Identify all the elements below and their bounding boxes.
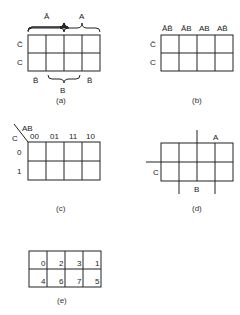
kmap-a-bottom-label-b-bar-right: B̄	[87, 76, 92, 85]
kmap-e-cell-2: 2	[59, 259, 64, 268]
kmap-c-col-header-01: 01	[50, 132, 59, 141]
kmap-d-label-c: C	[153, 168, 159, 177]
kmap-a-brace-right	[64, 23, 100, 32]
kmap-e-cell-3: 3	[77, 259, 82, 268]
karnaugh-map-figure: Ā A C̄ C B̄ B B̄ (a) ĀB̄ ĀB AB AB̄ C̄ C	[0, 0, 240, 315]
kmap-a-brace-left	[28, 23, 69, 32]
kmap-c-corner-c: C	[12, 134, 18, 143]
kmap-b-col-header-4: AB̄	[217, 24, 228, 33]
kmap-d-grid	[146, 130, 233, 194]
kmap-c-row-label-0: 0	[17, 148, 22, 157]
kmap-a-grid	[28, 35, 100, 71]
kmap-b-grid	[161, 35, 233, 71]
kmap-a-row-label-c-bar: C̄	[17, 40, 23, 49]
kmap-e-cell-6: 6	[59, 277, 64, 286]
kmap-d-label-b: B	[194, 185, 199, 194]
kmap-c-col-header-11: 11	[69, 132, 78, 141]
kmap-c-row-label-1: 1	[17, 167, 22, 176]
kmap-d: A C B (d)	[146, 130, 233, 213]
kmap-b-col-header-2: ĀB	[181, 24, 192, 33]
kmap-a-row-label-c: C	[17, 58, 23, 67]
kmap-b-caption: (b)	[192, 96, 202, 105]
kmap-c-caption: (c)	[56, 204, 66, 213]
kmap-b-row-label-c: C	[150, 58, 156, 67]
kmap-e: 0 2 3 1 4 6 7 5 (e)	[29, 251, 101, 305]
kmap-c: AB C 00 01 11 10 0 1 (c)	[12, 124, 100, 213]
kmap-c-grid	[28, 142, 100, 180]
kmap-e-cell-0: 0	[41, 259, 46, 268]
kmap-b-row-label-c-bar: C̄	[150, 40, 156, 49]
kmap-e-grid	[29, 251, 101, 287]
kmap-a-brace-left-end	[60, 28, 64, 32]
kmap-b-col-header-3: AB	[199, 24, 210, 33]
kmap-a-label-a: A	[79, 12, 85, 21]
kmap-d-label-a: A	[213, 133, 219, 142]
kmap-b: ĀB̄ ĀB AB AB̄ C̄ C (b)	[150, 24, 233, 105]
kmap-b-col-header-1: ĀB̄	[162, 24, 173, 33]
kmap-c-col-header-10: 10	[86, 132, 95, 141]
kmap-d-caption: (d)	[192, 204, 202, 213]
kmap-a-label-a-bar: Ā	[44, 12, 50, 21]
kmap-e-cell-1: 1	[95, 259, 100, 268]
kmap-a-bottom-label-b: B	[60, 86, 65, 95]
kmap-e-caption: (e)	[57, 296, 67, 305]
kmap-a-brace-b	[48, 75, 80, 83]
kmap-a-bottom-label-b-bar-left: B̄	[33, 76, 38, 85]
kmap-a-caption: (a)	[56, 96, 66, 105]
kmap-e-cell-4: 4	[41, 277, 46, 286]
kmap-c-col-header-00: 00	[30, 132, 39, 141]
kmap-e-cell-7: 7	[77, 277, 82, 286]
kmap-e-cell-5: 5	[95, 277, 100, 286]
kmap-a: Ā A C̄ C B̄ B B̄ (a)	[17, 12, 100, 105]
